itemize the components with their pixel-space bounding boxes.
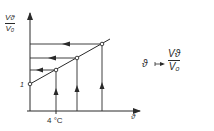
diagram-canvas [0,0,214,131]
mapping-variable: ϑ [142,59,148,69]
arrowhead-left-icon [48,56,56,61]
y-tick-label: 1 [20,81,24,88]
arrowhead-left-icon [62,42,70,47]
arrowhead-up-icon [100,82,105,89]
mapping-numerator: Vϑ [168,49,180,59]
arrowhead-up-icon [75,85,80,92]
data-point [28,82,32,86]
y-axis-label: Vϑ V₀ [5,14,15,33]
arrowhead-up-icon [54,88,59,95]
maps-to-arrowhead-icon [160,62,165,66]
data-point [75,56,79,60]
y-axis-denominator: V₀ [6,25,15,33]
data-point [100,42,104,46]
x-axis-label: ϑ [131,113,135,121]
mapping-fraction: Vϑ V₀ [168,49,180,72]
arrowhead-left-icon [36,68,43,73]
mapping-denominator: V₀ [169,62,180,72]
x-tick-label: 4 °C [47,117,63,125]
y-axis-numerator: Vϑ [5,14,15,22]
data-point [54,68,58,72]
